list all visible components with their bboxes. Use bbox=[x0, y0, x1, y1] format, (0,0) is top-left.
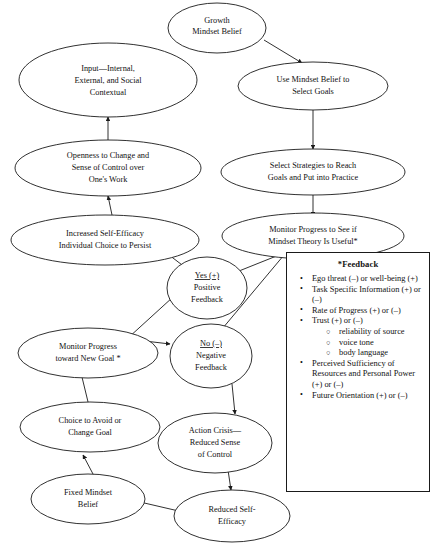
feedback-item: • Ego threat (–) or well-being (+) bbox=[300, 274, 425, 285]
feedback-item: • Trust (+) or (–) ○ reliability of sour… bbox=[300, 316, 425, 358]
node-label-self-efficacy: Increased Self-Efficacy bbox=[66, 229, 145, 238]
svg-text:toward New Goal *: toward New Goal * bbox=[55, 354, 120, 363]
node-label-fixed: Fixed Mindset bbox=[64, 488, 113, 497]
feedback-item-text: Perceived Sufficiency of Resources and P… bbox=[312, 359, 415, 389]
edge-growth-to-use-mindset bbox=[264, 40, 302, 63]
feedback-sublist: ○ reliability of source ○ voice tone ○ b… bbox=[312, 327, 425, 359]
svg-text:Reduced Sense: Reduced Sense bbox=[190, 438, 241, 447]
svg-text:Goals and Put into Practice: Goals and Put into Practice bbox=[268, 173, 359, 182]
node-label-choice-avoid: Choice to Avoid or bbox=[59, 416, 122, 425]
svg-text:Negative: Negative bbox=[196, 351, 226, 360]
feedback-subitem-text: body language bbox=[339, 348, 388, 357]
node-label-monitor: Monitor Progress to See if bbox=[269, 225, 357, 234]
bullet-icon: • bbox=[300, 390, 303, 401]
feedback-item-text: Rate of Progress (+) or (–) bbox=[312, 306, 401, 315]
circle-bullet-icon: ○ bbox=[326, 327, 330, 338]
node-action-crisis[interactable]: Action Crisis— Reduced Sense of Control bbox=[158, 413, 272, 473]
bullet-icon: • bbox=[300, 316, 303, 327]
svg-text:Change Goal: Change Goal bbox=[68, 428, 112, 437]
feedback-item: • Perceived Sufficiency of Resources and… bbox=[300, 359, 425, 391]
edge-action-crisis-to-reduced-se bbox=[228, 470, 231, 490]
node-monitor-progress-new-goal[interactable]: Monitor Progress toward New Goal * bbox=[18, 328, 158, 378]
feedback-item: • Rate of Progress (+) or (–) bbox=[300, 306, 425, 317]
feedback-item-text: Future Orientation (+) or (–) bbox=[312, 391, 407, 400]
svg-text:Feedback: Feedback bbox=[195, 363, 228, 372]
bullet-icon: • bbox=[300, 274, 303, 285]
node-label-use-mindset: Use Mindset Belief to bbox=[276, 75, 349, 84]
bullet-icon: • bbox=[300, 284, 303, 295]
svg-text:Sense of Control over: Sense of Control over bbox=[72, 163, 145, 172]
svg-text:Select Goals: Select Goals bbox=[292, 87, 334, 96]
node-yes-positive-feedback[interactable]: Yes (+) Positive Feedback bbox=[167, 257, 247, 319]
node-label-input: Input—Internal, bbox=[81, 64, 135, 73]
circle-bullet-icon: ○ bbox=[326, 338, 330, 349]
node-label-yes: Yes (+) bbox=[195, 271, 220, 280]
svg-text:External, and Social: External, and Social bbox=[74, 76, 142, 85]
node-fixed-mindset-belief[interactable]: Fixed Mindset Belief bbox=[31, 474, 145, 524]
feedback-subitem: ○ body language bbox=[326, 348, 425, 359]
node-label-strategies: Select Strategies to Reach bbox=[270, 161, 357, 170]
node-label-monitor-new: Monitor Progress bbox=[59, 342, 117, 351]
circle-bullet-icon: ○ bbox=[326, 348, 330, 359]
node-label-reduced-se: Reduced Self- bbox=[208, 505, 255, 514]
svg-text:Contextual: Contextual bbox=[90, 88, 127, 97]
feedback-item-text: Trust (+) or (–) bbox=[312, 316, 363, 325]
feedback-subitem-text: reliability of source bbox=[339, 327, 405, 336]
feedback-title: *Feedback bbox=[291, 259, 425, 269]
feedback-item-text: Task Specific Information (+) or (–) bbox=[312, 285, 421, 305]
feedback-item: • Task Specific Information (+) or (–) bbox=[300, 285, 425, 306]
feedback-subitem: ○ voice tone bbox=[326, 338, 425, 349]
node-label-openness: Openness to Change and bbox=[67, 151, 150, 160]
page-caption-strip bbox=[0, 532, 432, 546]
edge-self-efficacy-to-openness bbox=[108, 196, 112, 215]
node-choice-to-avoid[interactable]: Choice to Avoid or Change Goal bbox=[20, 402, 160, 452]
node-select-strategies[interactable]: Select Strategies to Reach Goals and Put… bbox=[221, 149, 405, 195]
node-no-negative-feedback[interactable]: No (–) Negative Feedback bbox=[170, 324, 252, 388]
feedback-subitem: ○ reliability of source bbox=[326, 327, 425, 338]
feedback-list: • Ego threat (–) or well-being (+) • Tas… bbox=[291, 274, 425, 401]
edge-monitor-new-to-yes bbox=[128, 297, 173, 338]
node-label-no: No (–) bbox=[200, 339, 222, 348]
feedback-legend-box: *Feedback • Ego threat (–) or well-being… bbox=[286, 252, 430, 492]
feedback-item-text: Ego threat (–) or well-being (+) bbox=[312, 274, 418, 283]
svg-text:Feedback: Feedback bbox=[191, 295, 224, 304]
edge-no-to-action-crisis bbox=[232, 384, 235, 414]
svg-text:Individual Choice to Persist: Individual Choice to Persist bbox=[59, 241, 152, 250]
svg-text:Belief: Belief bbox=[78, 500, 99, 509]
node-growth-mindset-belief[interactable]: Growth Mindset Belief bbox=[168, 3, 266, 53]
node-use-mindset-belief[interactable]: Use Mindset Belief to Select Goals bbox=[238, 62, 388, 110]
feedback-subitem-text: voice tone bbox=[339, 338, 374, 347]
node-increased-self-efficacy[interactable]: Increased Self-Efficacy Individual Choic… bbox=[11, 215, 199, 265]
bullet-icon: • bbox=[300, 305, 303, 316]
svg-text:of Control: of Control bbox=[198, 450, 233, 459]
node-label-action-crisis: Action Crisis— bbox=[189, 426, 242, 435]
svg-text:Mindset Belief: Mindset Belief bbox=[192, 27, 242, 36]
diagram-page: Growth Mindset Belief Input—Internal, Ex… bbox=[0, 0, 432, 546]
node-openness-to-change[interactable]: Openness to Change and Sense of Control … bbox=[15, 140, 201, 196]
node-input[interactable]: Input—Internal, External, and Social Con… bbox=[19, 43, 197, 117]
svg-text:Efficacy: Efficacy bbox=[218, 517, 247, 526]
node-label-growth: Growth bbox=[204, 16, 230, 25]
feedback-item: • Future Orientation (+) or (–) bbox=[300, 391, 425, 402]
bullet-icon: • bbox=[300, 358, 303, 369]
svg-text:Mindset Theory Is Useful*: Mindset Theory Is Useful* bbox=[268, 237, 358, 246]
svg-text:Positive: Positive bbox=[194, 283, 221, 292]
svg-text:One's Work: One's Work bbox=[89, 175, 129, 184]
